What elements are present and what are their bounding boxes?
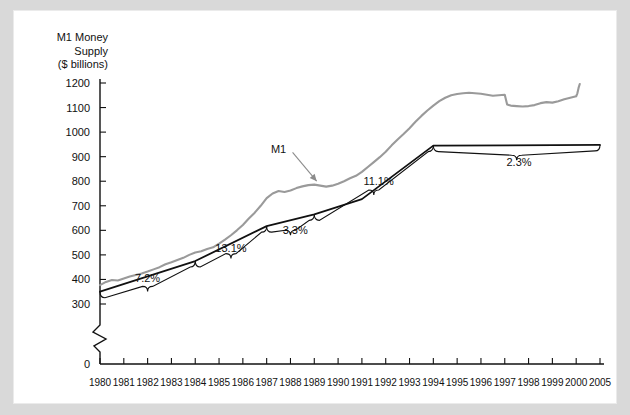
y-tick-label: 800 [72,175,90,187]
x-axis-tick-marks [100,358,600,364]
y-tick-label: 500 [72,249,90,261]
x-tick-label: 1981 [113,377,136,388]
x-tick-label: 1994 [422,377,445,388]
growth-rate-label: 11.1% [363,175,394,187]
m1-series-label: M1 [271,143,286,155]
growth-rate-label: 2.3% [507,156,532,168]
y-tick-label: 1100 [66,102,90,114]
x-tick-label: 1988 [279,377,302,388]
x-tick-label: 1991 [351,377,374,388]
m1-series-line [100,84,580,285]
x-tick-label: 1997 [494,377,517,388]
x-tick-label: 1990 [327,377,350,388]
x-tick-label: 1989 [303,377,326,388]
x-tick-label: 1986 [232,377,255,388]
y-axis-tick-labels: 0300400500600700800900100011001200 [66,77,90,370]
x-tick-label: 1983 [160,377,183,388]
y-axis-line [93,79,106,364]
x-tick-label: 1999 [541,377,564,388]
m1-money-supply-line-chart: 0300400500600700800900100011001200 19801… [14,11,616,403]
y-tick-label: 300 [72,298,90,310]
x-tick-label: 1987 [256,377,279,388]
x-tick-label: 1980 [89,377,112,388]
growth-rate-label: 3.3% [283,224,308,236]
y-tick-label: 0 [84,358,90,370]
x-tick-label: 1982 [136,377,159,388]
screenshot-root: M1 Money Supply ($ billions) 03004005006… [0,0,630,415]
x-tick-label: 1984 [184,377,207,388]
growth-rate-label: 13.1% [215,242,246,254]
y-tick-label: 900 [72,151,90,163]
y-axis-tick-marks [100,83,106,304]
y-tick-label: 1200 [66,77,90,89]
growth-rate-label: 7.2% [135,272,160,284]
x-tick-label: 1998 [517,377,540,388]
x-tick-label: 1995 [446,377,469,388]
x-tick-label: 1996 [470,377,493,388]
x-tick-label: 2000 [565,377,588,388]
x-tick-label: 1985 [208,377,231,388]
x-tick-label: 1993 [398,377,421,388]
y-tick-label: 1000 [66,126,90,138]
y-tick-label: 600 [72,224,90,236]
y-tick-label: 700 [72,200,90,212]
x-tick-label: 2005 [589,377,612,388]
x-tick-label: 1992 [375,377,398,388]
y-tick-label: 400 [72,273,90,285]
growth-rate-braces [100,145,600,298]
chart-panel: M1 Money Supply ($ billions) 03004005006… [14,11,616,403]
x-axis-tick-labels: 1980198119821983198419851986198719881989… [89,377,612,388]
